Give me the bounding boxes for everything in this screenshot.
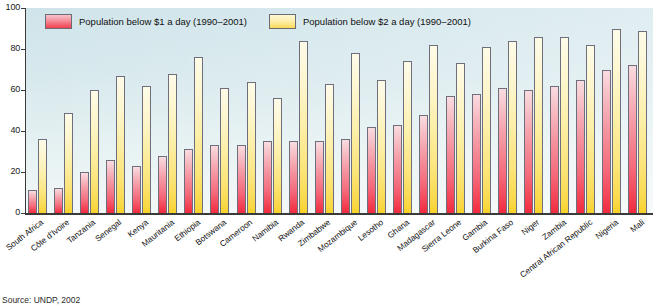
bar-dollar2	[168, 74, 177, 213]
bar-group	[315, 84, 334, 213]
y-tick-label-20: 20	[0, 166, 20, 176]
bar-group	[576, 45, 595, 213]
bar-group	[393, 61, 412, 213]
bar-dollar2	[586, 45, 595, 213]
bar-dollar2	[403, 61, 412, 213]
bar-group	[550, 37, 569, 213]
y-tick-label-80: 80	[0, 43, 20, 53]
bar-group	[472, 47, 491, 213]
bar-dollar1	[576, 80, 585, 213]
bar-dollar1	[602, 70, 611, 214]
bar-group	[289, 41, 308, 213]
bar-dollar2	[194, 57, 203, 213]
bar-dollar2	[429, 45, 438, 213]
bar-group	[237, 82, 256, 213]
bar-group	[446, 63, 465, 213]
bar-dollar2	[325, 84, 334, 213]
bar-dollar2	[299, 41, 308, 213]
bar-group	[341, 53, 360, 213]
y-tick-label-100: 100	[0, 2, 20, 12]
bar-dollar2	[247, 82, 256, 213]
bar-dollar2	[220, 88, 229, 213]
y-tick-label-60: 60	[0, 84, 20, 94]
bar-groups	[26, 8, 653, 213]
bar-dollar2	[508, 41, 517, 213]
bar-dollar2	[560, 37, 569, 213]
bar-dollar2	[351, 53, 360, 213]
bar-group	[28, 139, 47, 213]
bar-dollar2	[612, 29, 621, 214]
bar-group	[184, 57, 203, 213]
bar-group	[524, 37, 543, 213]
bar-dollar1	[472, 94, 481, 213]
y-tick-mark-100	[21, 8, 25, 9]
bar-dollar1	[419, 115, 428, 213]
y-tick-mark-80	[21, 49, 25, 50]
bar-group	[132, 86, 151, 213]
bar-group	[158, 74, 177, 213]
bar-dollar2	[142, 86, 151, 213]
bar-group	[602, 29, 621, 214]
y-tick-mark-40	[21, 131, 25, 132]
bar-dollar2	[534, 37, 543, 213]
bar-group	[106, 76, 125, 213]
bar-group	[210, 88, 229, 213]
y-tick-mark-20	[21, 172, 25, 173]
bar-dollar1	[524, 90, 533, 213]
bar-group	[498, 41, 517, 213]
bar-dollar1	[446, 96, 455, 213]
bar-dollar1	[28, 190, 37, 213]
y-tick-label-40: 40	[0, 125, 20, 135]
bar-dollar2	[482, 47, 491, 213]
bar-group	[419, 45, 438, 213]
bar-dollar2	[38, 139, 47, 213]
y-tick-mark-60	[21, 90, 25, 91]
poverty-bar-chart: 020406080100 Population below $1 a day (…	[0, 0, 653, 307]
x-axis-category-labels: South AfricaCôte d'IvoireTanzaniaSenegal…	[0, 214, 653, 289]
bar-dollar2	[116, 76, 125, 213]
source-note: Source: UNDP, 2002	[2, 295, 80, 305]
